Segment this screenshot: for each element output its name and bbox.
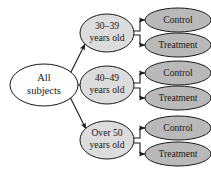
- node-leaf-control-3[interactable]: Control: [145, 116, 211, 140]
- edge-block-40-49-to-treatment: [133, 88, 145, 98]
- node-leaf-treatment-3-label: Treatment: [158, 148, 197, 159]
- edges-block-40-49-to-leaves: [133, 73, 145, 98]
- node-block-30-39-label-line1: 30–39: [95, 20, 119, 31]
- node-leaf-control-3-label: Control: [163, 122, 193, 133]
- edge-block-over-50-to-treatment: [133, 143, 145, 154]
- node-leaf-control-1[interactable]: Control: [145, 8, 211, 32]
- node-all-subjects[interactable]: All subjects: [10, 64, 78, 106]
- edge-root-to-block-over-50: [70, 97, 86, 129]
- diagram-canvas: All subjects 30–39 years old 40–49 years…: [0, 0, 211, 175]
- node-leaf-control-1-label: Control: [163, 14, 193, 25]
- node-leaf-treatment-1[interactable]: Treatment: [145, 33, 211, 57]
- edge-block-30-39-to-control: [133, 20, 145, 31]
- randomized-block-design-diagram: All subjects 30–39 years old 40–49 years…: [0, 0, 211, 175]
- node-block-over-50[interactable]: Over 50 years old: [80, 121, 134, 159]
- node-block-30-39[interactable]: 30–39 years old: [80, 14, 134, 52]
- node-block-30-39-label-line2: years old: [90, 32, 125, 43]
- node-leaf-treatment-2[interactable]: Treatment: [145, 86, 211, 110]
- node-block-40-49[interactable]: 40–49 years old: [80, 66, 134, 104]
- node-block-40-49-label-line2: years old: [90, 84, 125, 95]
- node-leaf-control-2-label: Control: [163, 67, 193, 78]
- edge-block-over-50-to-control: [133, 128, 145, 138]
- node-block-40-49-label-line1: 40–49: [95, 72, 119, 83]
- edge-block-30-39-to-treatment: [133, 35, 145, 45]
- node-all-subjects-label-line2: subjects: [27, 85, 61, 96]
- node-leaf-treatment-1-label: Treatment: [158, 39, 197, 50]
- node-all-subjects-label-line1: All: [37, 72, 51, 83]
- edge-root-to-block-30-39: [70, 44, 85, 74]
- node-leaf-control-2[interactable]: Control: [145, 61, 211, 85]
- edges-block-30-39-to-leaves: [133, 20, 145, 45]
- node-leaf-treatment-2-label: Treatment: [158, 92, 197, 103]
- node-leaf-treatment-3[interactable]: Treatment: [145, 142, 211, 166]
- edges-block-over-50-to-leaves: [133, 128, 145, 154]
- node-block-over-50-label-line1: Over 50: [91, 127, 122, 138]
- node-block-over-50-label-line2: years old: [90, 139, 125, 150]
- edge-block-40-49-to-control: [133, 73, 145, 83]
